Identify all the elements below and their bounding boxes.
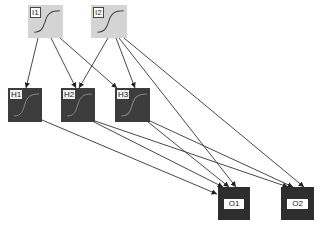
node-h3[interactable]: H3	[115, 88, 150, 122]
node-h2[interactable]: H2	[61, 88, 95, 122]
node-label: I2	[93, 7, 104, 18]
node-o1[interactable]: O1	[218, 187, 250, 220]
node-label: O1	[224, 199, 244, 209]
edge-i1-h2	[51, 38, 76, 88]
edge-h2-o1	[94, 122, 223, 187]
network-diagram: I1I2H1H2H3O1O2	[0, 0, 323, 230]
edge-i1-h3	[60, 38, 117, 88]
node-o2[interactable]: O2	[281, 187, 314, 220]
edge-i2-h2	[79, 38, 108, 88]
node-i2[interactable]: I2	[91, 5, 127, 38]
node-label: H3	[117, 90, 129, 99]
edge-i1-h1	[26, 38, 38, 88]
node-label: O2	[287, 199, 308, 209]
edge-i2-h3	[116, 38, 135, 88]
edge-h3-o1	[148, 122, 229, 187]
node-label: I1	[30, 7, 41, 18]
edge-h3-o2	[150, 121, 293, 187]
node-h1[interactable]: H1	[8, 88, 42, 122]
node-label: H1	[10, 90, 22, 99]
node-i1[interactable]: I1	[28, 5, 63, 38]
edge-i2-o2	[124, 38, 304, 187]
edge-h1-o1	[42, 120, 217, 194]
node-label: H2	[63, 90, 75, 99]
